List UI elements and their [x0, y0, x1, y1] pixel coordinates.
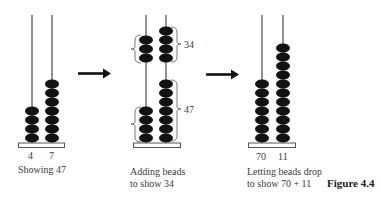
beads-ones [45, 79, 59, 142]
caption-panel-3-line-2: to show 70 + 11 [247, 178, 311, 190]
caption-panel-2-line-2: to show 34 [130, 178, 174, 190]
abacus-base [134, 143, 181, 148]
beads-ones-added [159, 26, 173, 62]
arrow-right-icon [78, 69, 111, 79]
abacus-panel-showing-47 [19, 15, 65, 148]
rod-label-ones: 7 [49, 150, 54, 161]
beads-ones [276, 43, 290, 142]
beads-ones-original [159, 79, 173, 142]
bracket-34 [131, 27, 181, 63]
abacus-base [249, 143, 296, 148]
abacus-panel-70-plus-11 [249, 15, 296, 148]
beads-tens [255, 79, 269, 142]
abacus-panel-adding-34 [131, 15, 181, 148]
bracket-label-47: 47 [184, 104, 194, 115]
caption-panel-2-line-1: Adding beads [130, 166, 185, 178]
rod-label-ones: 11 [278, 151, 288, 162]
beads-tens [25, 106, 39, 142]
figure-title: Figure 4.4 [327, 177, 374, 189]
beads-tens-added [139, 35, 153, 62]
bracket-label-34: 34 [184, 39, 194, 50]
arrow-right-icon [206, 70, 239, 80]
beads-tens-original [139, 106, 153, 142]
bracket-47 [131, 80, 181, 142]
caption-panel-1: Showing 47 [18, 164, 66, 176]
rod-label-tens: 4 [28, 150, 33, 161]
caption-panel-3-line-1: Letting beads drop [247, 166, 322, 178]
abacus-base [19, 143, 65, 148]
rod-label-tens: 70 [256, 151, 266, 162]
